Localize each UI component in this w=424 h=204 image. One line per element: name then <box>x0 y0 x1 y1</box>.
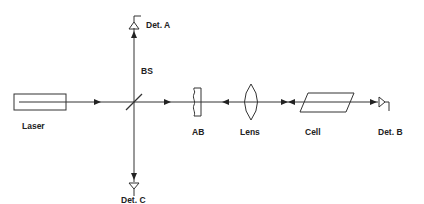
detector-b-label: Det. B <box>378 127 403 137</box>
arrow-right-icon <box>94 99 101 105</box>
arrow-right-icon <box>164 99 171 105</box>
beam-splitter-label: BS <box>141 66 153 76</box>
detector-a-label: Det. A <box>146 20 170 30</box>
arrow-right-icon <box>281 99 288 105</box>
arrow-up-icon <box>131 31 137 38</box>
detector-a-icon <box>129 22 139 29</box>
laser-label: Laser <box>22 121 45 131</box>
absorber-label: AB <box>192 127 204 137</box>
arrow-down-icon <box>131 173 137 180</box>
detector-a-lead <box>134 16 141 22</box>
arrow-left-icon <box>288 99 295 105</box>
detector-c-icon <box>129 183 139 189</box>
lens-label: Lens <box>240 127 260 137</box>
detector-b-lead <box>385 102 389 111</box>
detector-c-label: Det. C <box>121 195 146 204</box>
arrow-left-icon <box>222 99 229 105</box>
arrow-right-icon <box>370 99 377 105</box>
optical-diagram <box>0 0 424 204</box>
detector-b-icon <box>379 97 385 107</box>
cell-label: Cell <box>305 127 321 137</box>
